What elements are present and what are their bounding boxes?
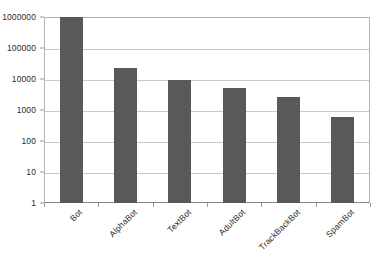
y-tick-label: 1000 xyxy=(17,105,36,115)
bar-chart: 1101001000100001000001000000 BotAlphaBot… xyxy=(0,0,384,272)
y-tick-label: 100 xyxy=(22,136,36,146)
x-tick-label-text: AdultBot xyxy=(217,207,247,237)
bar xyxy=(223,88,246,203)
bar xyxy=(331,117,354,203)
y-tick-label: 10000 xyxy=(12,74,36,84)
x-tick-label-text: SpamBot xyxy=(324,207,356,239)
x-tick-label-text: TextBot xyxy=(165,207,193,235)
bar xyxy=(277,97,300,203)
x-axis-labels: BotAlphaBotTextBotAdultBotTrackBackBotSp… xyxy=(44,207,370,272)
bar xyxy=(114,68,137,203)
x-tick-mark xyxy=(370,203,371,207)
y-tick-label: 1 xyxy=(31,198,36,208)
y-tick-label: 10 xyxy=(26,167,36,177)
bar-series xyxy=(44,17,370,203)
bar xyxy=(60,17,83,203)
bar xyxy=(168,80,191,203)
y-axis: 1101001000100001000001000000 xyxy=(0,0,44,272)
x-tick-label-text: TrackBackBot xyxy=(257,207,302,252)
y-tick-label: 1000000 xyxy=(2,12,36,22)
x-tick-label-text: Bot xyxy=(68,207,84,223)
x-tick-label-text: AlphaBot xyxy=(107,207,139,239)
y-tick-label: 100000 xyxy=(7,43,36,53)
